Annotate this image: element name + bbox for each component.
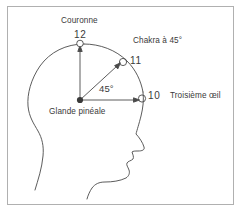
marker-number-11: 11 <box>130 56 142 66</box>
head-diagram-artwork <box>0 0 242 213</box>
marker-12-crown <box>77 40 84 47</box>
label-chakra-45: Chakra à 45° <box>133 37 182 45</box>
label-glande-pineale: Glande pinéale <box>49 108 105 116</box>
label-couronne: Couronne <box>61 17 98 25</box>
marker-number-10: 10 <box>148 91 160 101</box>
marker-number-12: 12 <box>74 30 86 40</box>
figure-container: Couronne 12 Chakra à 45° 11 Troisième œi… <box>0 0 242 213</box>
skull-back-outline <box>28 44 84 190</box>
label-troisieme-oeil: Troisième œil <box>170 92 221 100</box>
label-angle-45: 45° <box>99 84 114 94</box>
marker-10-third-eye <box>138 95 145 102</box>
marker-11-chakra45 <box>119 58 126 65</box>
marker-pineal-gland <box>77 97 83 103</box>
